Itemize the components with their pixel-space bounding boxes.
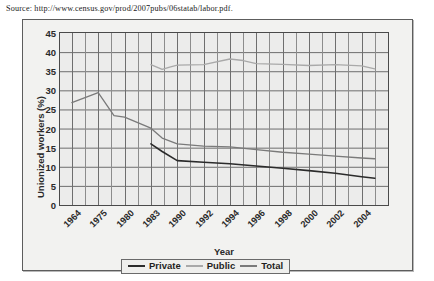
y-axis-tick-40: 40 bbox=[24, 47, 56, 58]
chart-frame: Unionized workers (%) 051015202530354045… bbox=[22, 19, 413, 271]
legend-item-total: Total bbox=[240, 261, 283, 271]
y-axis-tick-10: 10 bbox=[24, 161, 56, 172]
x-axis-tick-1992: 1992 bbox=[193, 208, 215, 230]
x-axis-tick-1983: 1983 bbox=[140, 208, 162, 230]
x-axis-tick-1994: 1994 bbox=[219, 208, 241, 230]
x-axis-tick-1998: 1998 bbox=[272, 208, 294, 230]
data-lines bbox=[60, 33, 388, 205]
legend-swatch-total bbox=[240, 265, 257, 267]
source-caption: Source: http://www.census.gov/prod/2007p… bbox=[6, 4, 233, 13]
y-axis-tick-labels: 051015202530354045 bbox=[23, 32, 56, 206]
plot-area bbox=[59, 32, 389, 206]
x-axis-tick-2002: 2002 bbox=[325, 208, 347, 230]
y-axis-tick-20: 20 bbox=[24, 123, 56, 134]
chart-screenshot: Source: http://www.census.gov/prod/2007p… bbox=[0, 0, 434, 281]
x-axis-tick-1990: 1990 bbox=[167, 208, 189, 230]
y-axis-tick-45: 45 bbox=[24, 28, 56, 39]
x-axis-tick-1964: 1964 bbox=[61, 208, 83, 230]
series-line-public bbox=[151, 59, 375, 69]
x-axis-tick-2000: 2000 bbox=[298, 208, 320, 230]
y-axis-tick-15: 15 bbox=[24, 142, 56, 153]
x-axis-tick-1975: 1975 bbox=[88, 208, 110, 230]
y-axis-tick-0: 0 bbox=[24, 200, 56, 211]
legend-item-public: Public bbox=[186, 261, 236, 271]
x-axis-tick-1996: 1996 bbox=[246, 208, 268, 230]
legend-label-total: Total bbox=[261, 261, 283, 271]
x-axis-title: Year bbox=[59, 246, 389, 257]
legend-label-public: Public bbox=[207, 261, 236, 271]
y-axis-tick-25: 25 bbox=[24, 104, 56, 115]
x-axis-tick-2004: 2004 bbox=[351, 208, 373, 230]
y-axis-tick-30: 30 bbox=[24, 85, 56, 96]
legend-item-private: Private bbox=[128, 261, 181, 271]
chart-legend: PrivatePublicTotal bbox=[121, 259, 290, 274]
x-axis-tick-labels: 1964197519801983199019921994199619982000… bbox=[59, 208, 389, 246]
legend-swatch-private bbox=[128, 265, 145, 267]
series-line-total bbox=[72, 93, 375, 159]
y-axis-tick-35: 35 bbox=[24, 66, 56, 77]
series-line-private bbox=[151, 144, 375, 178]
y-axis-tick-5: 5 bbox=[24, 180, 56, 191]
x-axis-tick-1980: 1980 bbox=[114, 208, 136, 230]
legend-label-private: Private bbox=[149, 261, 181, 271]
legend-swatch-public bbox=[186, 265, 203, 267]
